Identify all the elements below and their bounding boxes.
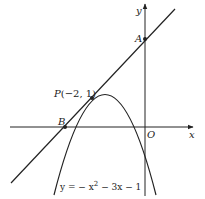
point-p-coords: (−2, 1) — [61, 88, 96, 99]
y-axis-label: y — [135, 5, 142, 16]
point-p-label: P(−2, 1) — [53, 88, 96, 99]
curve-equation-label: y = − x2 − 3x − 1 — [59, 180, 141, 192]
point-a-label: A — [134, 33, 142, 44]
origin-label: O — [147, 129, 155, 140]
point-a-marker — [143, 37, 147, 41]
point-b-label: B — [57, 116, 65, 127]
x-axis-label: x — [189, 129, 195, 140]
parabola-curve — [54, 95, 156, 196]
coordinate-diagram: y x O A B P(−2, 1) y = − x2 − 3x − 1 — [0, 0, 205, 199]
